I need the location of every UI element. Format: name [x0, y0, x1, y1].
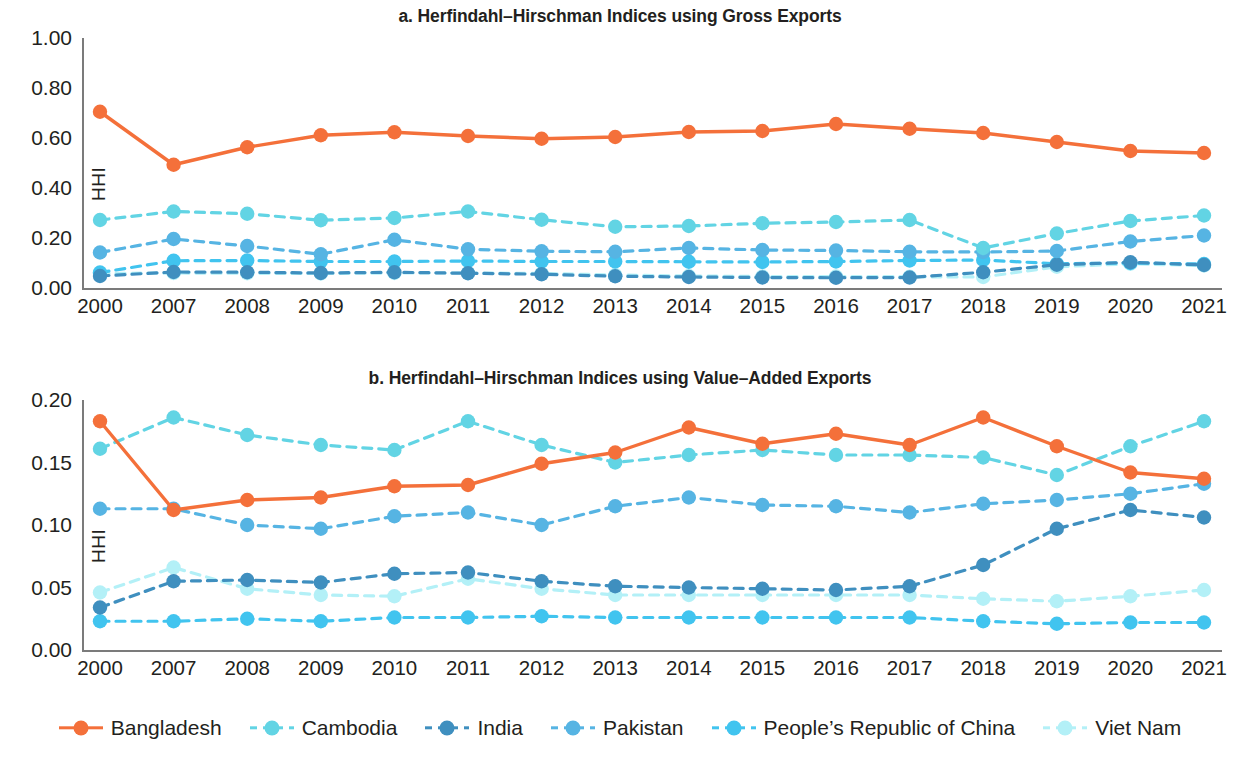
series-point [902, 122, 916, 136]
series-point [976, 126, 990, 140]
series-point [166, 560, 180, 574]
series-cambodia [93, 410, 1211, 482]
series-point [1050, 522, 1064, 536]
legend-item-india[interactable]: India [425, 716, 523, 740]
series-point [387, 265, 401, 279]
legend-dot [565, 721, 580, 736]
series-point [1123, 589, 1137, 603]
series-point [755, 216, 769, 230]
series-point [461, 478, 475, 492]
series-point [902, 213, 916, 227]
series-point [1123, 255, 1137, 269]
series-point [534, 609, 548, 623]
legend-dot [264, 721, 279, 736]
chart-b-x-tick: 2014 [666, 656, 712, 680]
series-point [1050, 594, 1064, 608]
chart-panel-a: a. Herfindahl–Hirschman Indices using Gr… [0, 0, 1240, 340]
series-line [100, 212, 1204, 249]
legend-marker-icon [1043, 719, 1087, 737]
chart-a-x-tick: 2020 [1108, 294, 1154, 318]
chart-b-x-tick: 2008 [224, 656, 270, 680]
series-india [93, 503, 1211, 615]
chart-a-title: a. Herfindahl–Hirschman Indices using Gr… [0, 6, 1240, 27]
series-point [534, 457, 548, 471]
series-point [1050, 226, 1064, 240]
series-point [240, 518, 254, 532]
legend-marker-icon [425, 719, 469, 737]
series-point [829, 610, 843, 624]
chart-a-x-tick: 2019 [1034, 294, 1080, 318]
series-point [682, 610, 696, 624]
series-point [976, 241, 990, 255]
series-point [682, 219, 696, 233]
series-point [1050, 439, 1064, 453]
series-point [976, 592, 990, 606]
series-point [314, 247, 328, 261]
series-point [682, 580, 696, 594]
series-point [682, 420, 696, 434]
chart-b-x-tick: 2009 [298, 656, 344, 680]
series-point [1050, 493, 1064, 507]
series-point [1050, 468, 1064, 482]
series-point [387, 233, 401, 247]
legend-item-pakistan[interactable]: Pakistan [551, 716, 684, 740]
chart-a-x-tick: 2007 [151, 294, 197, 318]
series-point [166, 574, 180, 588]
series-point [682, 448, 696, 462]
series-point [829, 583, 843, 597]
series-point [1197, 510, 1211, 524]
legend-label: Viet Nam [1095, 716, 1181, 740]
series-point [976, 497, 990, 511]
series-point [608, 130, 622, 144]
series-point [1197, 414, 1211, 428]
legend-item-people-s-republic-of-china[interactable]: People’s Republic of China [712, 716, 1016, 740]
series-point [387, 610, 401, 624]
series-point [1123, 439, 1137, 453]
legend-item-cambodia[interactable]: Cambodia [250, 716, 398, 740]
series-point [387, 211, 401, 225]
series-point [166, 232, 180, 246]
series-point [387, 125, 401, 139]
chart-b-y-tick: 0.15 [31, 451, 72, 475]
series-point [314, 266, 328, 280]
series-point [755, 437, 769, 451]
series-point [93, 442, 107, 456]
legend-label: Pakistan [603, 716, 684, 740]
series-point [240, 265, 254, 279]
series-point [93, 245, 107, 259]
chart-b-x-tick: 2017 [887, 656, 933, 680]
series-point [902, 610, 916, 624]
series-people-s-republic-of-china [93, 609, 1211, 631]
series-point [1050, 617, 1064, 631]
series-point [1050, 244, 1064, 258]
legend-item-viet-nam[interactable]: Viet Nam [1043, 716, 1181, 740]
series-point [608, 245, 622, 259]
legend-marker-icon [59, 719, 103, 737]
series-point [976, 614, 990, 628]
series-point [755, 610, 769, 624]
series-point [93, 213, 107, 227]
series-point [976, 558, 990, 572]
legend-dot [440, 721, 455, 736]
series-point [461, 266, 475, 280]
series-line [100, 616, 1204, 624]
chart-b-series-layer [82, 400, 1222, 650]
series-point [314, 522, 328, 536]
series-point [1197, 583, 1211, 597]
series-point [93, 585, 107, 599]
series-point [608, 220, 622, 234]
series-point [1197, 146, 1211, 160]
series-point [461, 242, 475, 256]
chart-a-y-tick: 0.60 [31, 126, 72, 150]
series-point [534, 438, 548, 452]
legend-marker-icon [551, 719, 595, 737]
legend-item-bangladesh[interactable]: Bangladesh [59, 716, 222, 740]
legend-marker-icon [712, 719, 756, 737]
chart-panel-b: b. Herfindahl–Hirschman Indices using Va… [0, 362, 1240, 702]
series-point [534, 132, 548, 146]
chart-a-x-tick: 2012 [519, 294, 565, 318]
series-point [682, 490, 696, 504]
series-point [93, 105, 107, 119]
series-point [829, 427, 843, 441]
chart-a-y-tick: 0.00 [31, 276, 72, 300]
